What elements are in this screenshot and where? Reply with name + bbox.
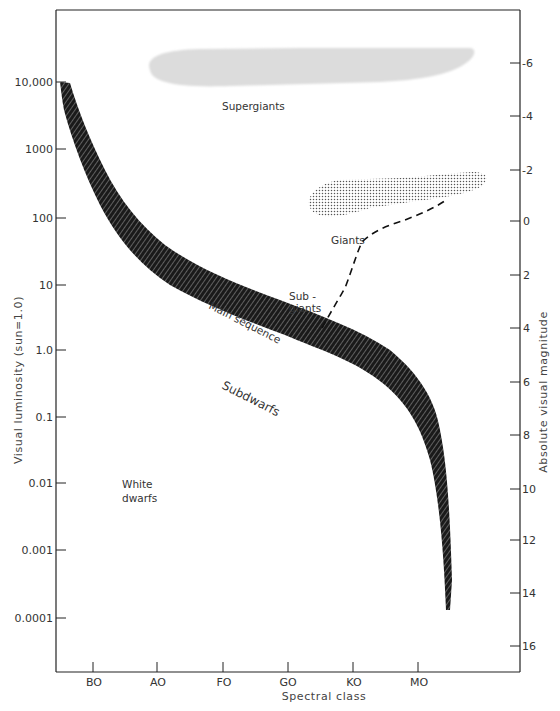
subgiants-label-line1: Sub -: [289, 290, 316, 302]
left-tick-label: 0.1: [36, 411, 54, 424]
right-tick-label: 12: [522, 534, 536, 547]
bottom-tick-label: BO: [86, 676, 102, 689]
right-tick-label: 0: [523, 215, 530, 228]
subgiant-dashed-line: [322, 200, 446, 328]
left-tick-label: 1.0: [36, 344, 54, 357]
y-axis-left-title: Visual luminosity (sun=1.0): [12, 296, 25, 464]
bottom-tick-label: FO: [217, 676, 232, 689]
right-axis: -6 -4 -2 0 2 4 6 8 10 12 14 16: [510, 57, 536, 653]
bottom-tick-label: MO: [410, 676, 428, 689]
right-tick-label: 8: [523, 429, 530, 442]
hr-diagram: 10,000 1000 100 10 1.0 0.1 0.01 0.001 0.…: [0, 0, 560, 711]
left-tick-label: 100: [32, 212, 53, 225]
white-dwarfs-label-line1: White: [122, 478, 153, 490]
right-tick-label: -2: [522, 164, 533, 177]
right-tick-label: 14: [522, 587, 536, 600]
right-tick-label: -6: [522, 57, 533, 70]
right-tick-label: 4: [523, 322, 530, 335]
left-tick-label: 0.001: [22, 544, 54, 557]
right-tick-label: 6: [523, 376, 530, 389]
bottom-axis: BO AO FO GO KO MO: [86, 662, 428, 689]
right-tick-label: 2: [523, 269, 530, 282]
y-axis-right-title: Absolute visual magnitude: [537, 311, 550, 473]
right-tick-label: -4: [522, 110, 533, 123]
bottom-tick-label: KO: [346, 676, 362, 689]
left-tick-label: 0.01: [29, 477, 54, 490]
giants-label: Giants: [331, 234, 365, 246]
supergiants-region: [149, 48, 474, 86]
right-tick-label: 16: [522, 640, 536, 653]
left-tick-label: 10: [39, 279, 53, 292]
subgiants-label-line2: giants: [289, 302, 321, 314]
main-sequence-band: [60, 82, 452, 610]
supergiants-label: Supergiants: [222, 100, 285, 112]
giants-region: [309, 172, 487, 216]
left-tick-label: 1000: [25, 143, 53, 156]
left-tick-label: 10,000: [15, 76, 54, 89]
x-axis-title: Spectral class: [282, 690, 367, 703]
bottom-tick-label: GO: [279, 676, 297, 689]
bottom-tick-label: AO: [150, 676, 166, 689]
subdwarfs-label: Subdwarfs: [220, 378, 283, 419]
right-tick-label: 10: [522, 483, 536, 496]
left-tick-label: 0.0001: [15, 612, 54, 625]
white-dwarfs-label-line2: dwarfs: [122, 492, 157, 504]
